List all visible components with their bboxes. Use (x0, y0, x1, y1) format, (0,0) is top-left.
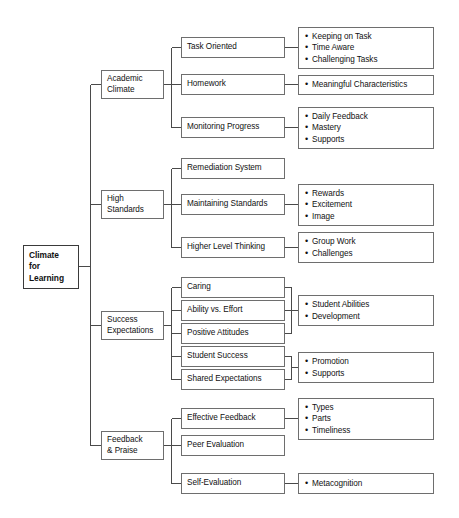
detail-box-effective-feedback: •Types •Parts •Timeliness (298, 398, 434, 440)
detail-item: •Group Work (305, 236, 427, 247)
detail-box-maintaining-standards: •Rewards •Excitement •Image (298, 184, 434, 226)
branch-label-line-1: Success (107, 315, 158, 326)
detail-box-task-oriented: •Keeping on Task •Time Aware •Challengin… (298, 27, 434, 69)
topic-node-higher-level-thinking[interactable]: Higher Level Thinking (181, 237, 285, 258)
topic-node-remediation-system[interactable]: Remediation System (181, 158, 285, 179)
detail-item: •Mastery (305, 122, 427, 133)
topic-label: Caring (187, 282, 279, 293)
bullet-icon: • (305, 236, 312, 247)
detail-item: •Development (305, 311, 427, 322)
bullet-icon: • (305, 199, 312, 210)
bullet-icon: • (305, 402, 312, 413)
detail-item: •Parts (305, 413, 427, 424)
bullet-icon: • (305, 299, 312, 310)
topic-label: Ability vs. Effort (187, 305, 279, 316)
bullet-icon: • (305, 188, 312, 199)
topic-label: Effective Feedback (187, 413, 279, 424)
topic-node-self-evaluation[interactable]: Self-Evaluation (181, 473, 285, 494)
detail-item: •Image (305, 211, 427, 222)
bullet-icon: • (305, 134, 312, 145)
topic-node-homework[interactable]: Homework (181, 74, 285, 95)
climate-for-learning-diagram: Climate for Learning Academic Climate Hi… (0, 0, 459, 518)
branch-node-feedback-and-praise[interactable]: Feedback & Praise (101, 431, 164, 460)
topic-node-peer-evaluation[interactable]: Peer Evaluation (181, 435, 285, 456)
topic-node-student-success[interactable]: Student Success (181, 346, 285, 367)
bullet-icon: • (305, 413, 312, 424)
bullet-icon: • (305, 248, 312, 259)
branch-label-line-1: High (107, 194, 158, 205)
detail-item: •Timeliness (305, 425, 427, 436)
bullet-icon: • (305, 478, 312, 489)
detail-item: •Challenging Tasks (305, 54, 427, 65)
detail-item: •Time Aware (305, 42, 427, 53)
detail-box-monitoring-progress: •Daily Feedback •Mastery •Supports (298, 107, 434, 149)
bullet-icon: • (305, 79, 312, 90)
branch-label-line-2: Climate (107, 85, 158, 96)
detail-item: •Student Abilities (305, 299, 427, 310)
branch-label-line-2: Expectations (107, 326, 158, 337)
branch-node-success-expectations[interactable]: Success Expectations (101, 311, 164, 340)
root-line-3: Learning (29, 273, 73, 284)
bullet-icon: • (305, 31, 312, 42)
branch-node-academic-climate[interactable]: Academic Climate (101, 70, 164, 99)
bullet-icon: • (305, 111, 312, 122)
topic-label: Higher Level Thinking (187, 242, 279, 253)
topic-node-task-oriented[interactable]: Task Oriented (181, 37, 285, 58)
bullet-icon: • (305, 425, 312, 436)
detail-item: •Supports (305, 368, 427, 379)
branch-node-high-standards[interactable]: High Standards (101, 190, 164, 219)
branch-label-line-1: Feedback (107, 435, 158, 446)
topic-node-positive-attitudes[interactable]: Positive Attitudes (181, 323, 285, 344)
branch-label-line-1: Academic (107, 74, 158, 85)
root-line-1: Climate (29, 250, 73, 261)
root-node-climate-for-learning[interactable]: Climate for Learning (23, 245, 79, 289)
detail-item: •Challenges (305, 248, 427, 259)
detail-item: •Keeping on Task (305, 31, 427, 42)
topic-node-ability-vs-effort[interactable]: Ability vs. Effort (181, 300, 285, 321)
topic-node-effective-feedback[interactable]: Effective Feedback (181, 408, 285, 429)
detail-item: •Excitement (305, 199, 427, 210)
detail-box-promotion-group: •Promotion •Supports (298, 352, 434, 383)
topic-node-shared-expectations[interactable]: Shared Expectations (181, 369, 285, 390)
topic-label: Monitoring Progress (187, 122, 279, 133)
detail-box-self-evaluation: •Metacognition (298, 473, 434, 494)
topic-label: Task Oriented (187, 42, 279, 53)
topic-label: Positive Attitudes (187, 328, 279, 339)
branch-label-line-2: & Praise (107, 446, 158, 457)
detail-item: •Meaningful Characteristics (305, 79, 427, 90)
bullet-icon: • (305, 356, 312, 367)
topic-node-caring[interactable]: Caring (181, 277, 285, 298)
detail-item: •Types (305, 402, 427, 413)
topic-node-monitoring-progress[interactable]: Monitoring Progress (181, 117, 285, 138)
detail-item: •Metacognition (305, 478, 427, 489)
detail-item: •Promotion (305, 356, 427, 367)
topic-label: Maintaining Standards (187, 199, 279, 210)
detail-item: •Supports (305, 134, 427, 145)
detail-item: •Rewards (305, 188, 427, 199)
branch-label-line-2: Standards (107, 205, 158, 216)
topic-node-maintaining-standards[interactable]: Maintaining Standards (181, 194, 285, 215)
bullet-icon: • (305, 311, 312, 322)
detail-item: •Daily Feedback (305, 111, 427, 122)
bullet-icon: • (305, 42, 312, 53)
detail-box-higher-level-thinking: •Group Work •Challenges (298, 232, 434, 263)
detail-box-student-abilities-group: •Student Abilities •Development (298, 295, 434, 326)
bullet-icon: • (305, 368, 312, 379)
topic-label: Peer Evaluation (187, 440, 279, 451)
topic-label: Remediation System (187, 163, 279, 174)
topic-label: Student Success (187, 351, 279, 362)
bullet-icon: • (305, 122, 312, 133)
topic-label: Homework (187, 79, 279, 90)
root-line-2: for (29, 261, 73, 272)
detail-box-homework: •Meaningful Characteristics (298, 75, 434, 95)
topic-label: Shared Expectations (187, 374, 279, 385)
bullet-icon: • (305, 54, 312, 65)
bullet-icon: • (305, 211, 312, 222)
topic-label: Self-Evaluation (187, 478, 279, 489)
